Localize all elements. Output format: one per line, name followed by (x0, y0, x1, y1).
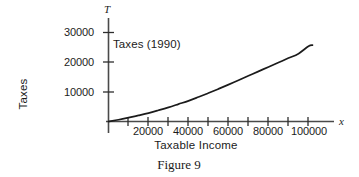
y-tick-label-20000: 20000 (64, 57, 94, 68)
x-axis-title: Taxable Income (154, 140, 237, 152)
x-axis-variable-label: x (339, 116, 344, 127)
figure-caption: Figure 9 (157, 158, 201, 171)
y-tick-label-30000: 30000 (64, 27, 94, 38)
x-tick-label-60000: 60000 (213, 126, 243, 137)
y-axis-variable-label: T (104, 4, 110, 15)
figure-container: 10000 20000 30000 20000 40000 60000 8000… (0, 0, 359, 177)
tax-curve (109, 45, 313, 121)
x-tick-label-40000: 40000 (173, 126, 203, 137)
x-tick-label-100000: 100000 (291, 126, 327, 137)
y-axis-title: Taxes (18, 78, 30, 109)
y-tick-label-10000: 10000 (64, 87, 94, 98)
x-tick-label-20000: 20000 (133, 126, 163, 137)
x-tick-label-80000: 80000 (253, 126, 283, 137)
plot-title: Taxes (1990) (113, 39, 181, 51)
